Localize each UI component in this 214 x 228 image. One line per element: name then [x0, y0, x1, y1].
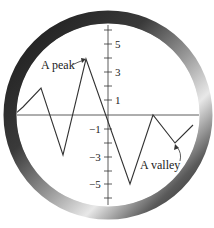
valley-label: A valley — [140, 158, 180, 172]
tick-label-minus-3: −3 — [89, 151, 101, 163]
tick-label-1: 1 — [115, 94, 121, 106]
tick-label-minus-5: −5 — [89, 178, 101, 190]
tick-label-5: 5 — [115, 38, 121, 50]
oscilloscope-diagram: 5 3 1 −1 −3 −5 A peak A valley — [0, 0, 214, 228]
tick-label-minus-1: −1 — [89, 123, 101, 135]
tick-label-3: 3 — [115, 66, 121, 78]
peak-label: A peak — [41, 58, 75, 72]
